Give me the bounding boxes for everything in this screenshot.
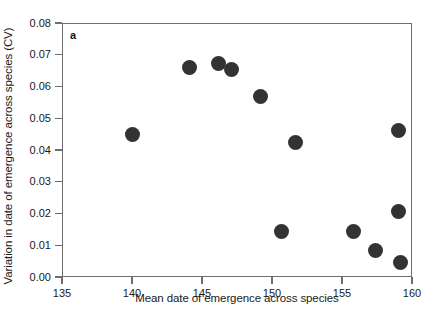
x-tick-mark — [271, 277, 272, 284]
x-tick-label: 140 — [112, 287, 152, 299]
data-point — [253, 89, 268, 104]
y-tick-mark — [55, 245, 62, 246]
data-point — [125, 127, 140, 142]
y-tick-label: 0.02 — [0, 208, 51, 219]
x-tick-mark — [201, 277, 202, 284]
y-tick-mark — [55, 181, 62, 182]
data-point — [182, 60, 197, 75]
y-tick-mark — [55, 149, 62, 150]
y-tick-label: 0.05 — [0, 113, 51, 124]
y-tick-label: 0.08 — [0, 18, 51, 29]
y-tick-label: 0.07 — [0, 49, 51, 60]
x-tick-label: 145 — [182, 287, 222, 299]
x-tick-label: 150 — [252, 287, 292, 299]
x-tick-label: 155 — [322, 287, 362, 299]
y-tick-label: 0.03 — [0, 176, 51, 187]
x-tick-label: 135 — [42, 287, 82, 299]
plot-area — [62, 23, 412, 277]
y-tick-label: 0.00 — [0, 272, 51, 283]
x-tick-label: 160 — [392, 287, 432, 299]
x-tick-mark — [61, 277, 62, 284]
data-point — [391, 123, 406, 138]
data-point — [368, 243, 383, 258]
data-point — [224, 62, 239, 77]
y-tick-mark — [55, 86, 62, 87]
panel-label: a — [70, 29, 76, 41]
y-tick-label: 0.06 — [0, 81, 51, 92]
y-tick-label: 0.04 — [0, 145, 51, 156]
data-point — [288, 135, 303, 150]
x-tick-mark — [341, 277, 342, 284]
y-tick-mark — [55, 54, 62, 55]
scatter-plot-figure: Variation in date of emergence across sp… — [0, 0, 439, 318]
data-point — [391, 204, 406, 219]
x-tick-mark — [411, 277, 412, 284]
y-tick-mark — [55, 213, 62, 214]
y-tick-mark — [55, 22, 62, 23]
y-tick-label: 0.01 — [0, 240, 51, 251]
y-tick-mark — [55, 118, 62, 119]
x-tick-mark — [131, 277, 132, 284]
